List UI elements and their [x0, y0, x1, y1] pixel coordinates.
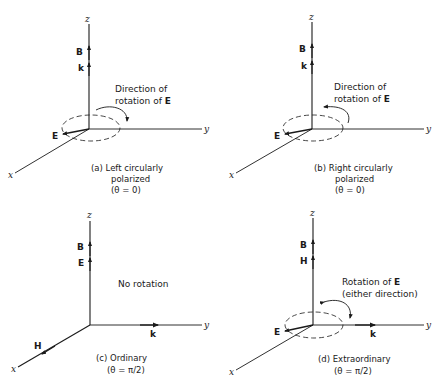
k-vector-label: k [78, 63, 85, 73]
x-axis-label: x [11, 364, 16, 374]
e-vector-label: E [52, 131, 58, 141]
x-axis-label: x [8, 170, 13, 180]
caption-line1: (d) Extraordinary [318, 354, 391, 364]
z-axis-label: z [308, 12, 314, 22]
z-axis-label: z [86, 210, 92, 220]
b-vector-label: B [77, 242, 84, 252]
rotation-arrow-both-icon [324, 300, 350, 318]
x-axis-label: x [229, 367, 234, 377]
e-vector-arrow [285, 325, 313, 331]
caption-line1: (b) Right circularly [314, 163, 393, 173]
caption-line3: (θ = 0) [111, 185, 141, 195]
k-vector-label: k [150, 329, 157, 339]
annotation-line2: rotation of E [115, 96, 171, 106]
h-vector-arrow [42, 346, 55, 354]
caption-line1: (a) Left circularly [91, 163, 163, 173]
annotation-line2: (either direction) [342, 289, 418, 299]
y-axis-label: y [425, 320, 432, 330]
panel-c: z y x B E k H No rotation (c) Ordinary (… [11, 210, 210, 375]
y-axis-label: y [425, 124, 432, 134]
caption-line2: (θ = π/2) [334, 366, 372, 376]
rotation-arrow-icon [324, 107, 349, 123]
b-vector-label: B [76, 47, 83, 57]
caption-line2: polarized [335, 174, 374, 184]
panel-a: z y x B k E Direction of rotation of E (… [8, 14, 210, 195]
annotation-line1: Direction of [115, 84, 168, 94]
b-vector-label: B [300, 240, 307, 250]
z-axis-label: z [84, 14, 90, 24]
polarization-figure: z y x B k E Direction of rotation of E (… [0, 0, 443, 389]
caption-line2: polarized [111, 174, 150, 184]
k-vector-label: k [370, 329, 377, 339]
panel-d: z y x B H k E Rotation of E (either dire… [229, 208, 432, 377]
y-axis-label: y [203, 124, 210, 134]
e-vector-label: E [274, 327, 280, 337]
y-axis-label: y [203, 320, 210, 330]
e-vector-label: E [78, 258, 84, 268]
caption-line2: (θ = π/2) [107, 365, 145, 375]
panel-b: z y x B k E Direction of rotation of E (… [229, 12, 432, 195]
x-axis-label: x [229, 170, 234, 180]
annotation-line1: Rotation of E [342, 277, 400, 287]
caption-line1: (c) Ordinary [96, 353, 147, 363]
annotation-line1: Direction of [334, 82, 387, 92]
rotation-ellipse [62, 115, 120, 141]
h-vector-label: H [34, 341, 42, 351]
h-vector-label: H [300, 256, 308, 266]
z-axis-label: z [309, 208, 315, 218]
annotation-text: No rotation [118, 279, 168, 289]
k-vector-label: k [301, 61, 308, 71]
b-vector-label: B [299, 44, 306, 54]
annotation-line2: rotation of E [334, 94, 390, 104]
rotation-ellipse [283, 115, 343, 141]
e-vector-label: E [274, 131, 280, 141]
caption-line3: (θ = 0) [335, 185, 365, 195]
